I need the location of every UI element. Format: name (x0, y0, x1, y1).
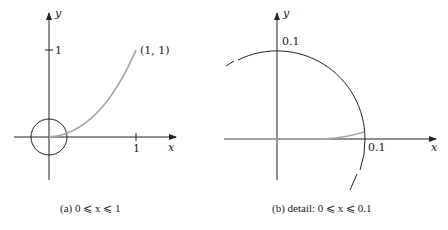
x-axis-label: x (168, 141, 175, 154)
y-axis-label: y (282, 7, 290, 20)
x-axis-label: x (431, 141, 438, 154)
detail-circle-arc (238, 51, 365, 170)
detail-circle-dash-lower (350, 174, 357, 190)
figure-canvas: y x 1 1 (1, 1) (a) 0 ⩽ x ⩽ 1 y x 0.1 0.1… (0, 0, 448, 230)
detail-circle-dash (226, 61, 234, 66)
x-tick-label: 1 (133, 142, 140, 155)
x-tick-label: 0.1 (368, 141, 386, 154)
curve (324, 132, 364, 139)
y-axis-label: y (54, 7, 62, 20)
caption-b: (b) detail: 0 ⩽ x ⩽ 0.1 (272, 202, 372, 215)
caption-a: (a) 0 ⩽ x ⩽ 1 (60, 202, 120, 215)
y-tick-label: 0.1 (282, 35, 300, 48)
point-label: (1, 1) (140, 44, 170, 57)
y-tick-label: 1 (55, 44, 62, 57)
panel-a: y x 1 1 (1, 1) (a) 0 ⩽ x ⩽ 1 (14, 7, 176, 215)
panel-b: y x 0.1 0.1 (b) detail: 0 ⩽ x ⩽ 0.1 (224, 7, 438, 215)
